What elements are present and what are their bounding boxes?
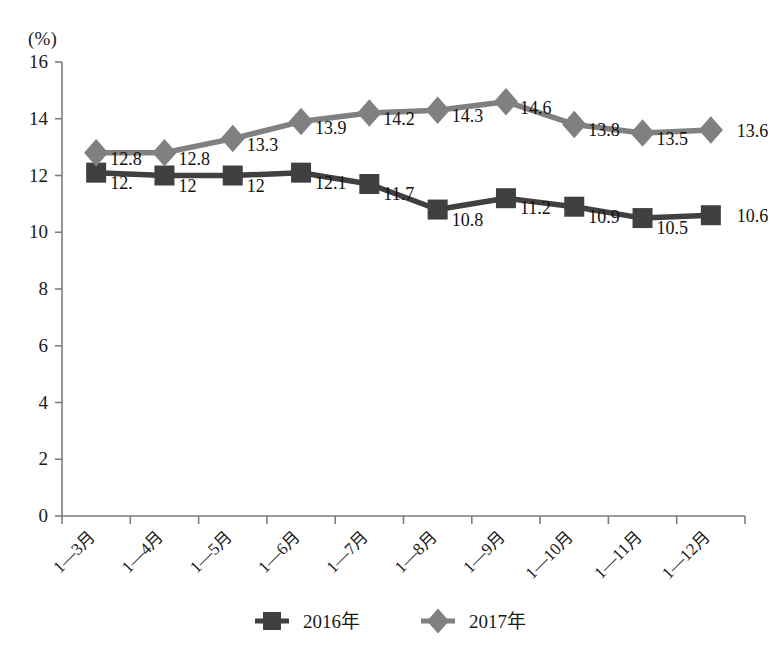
data-point-marker (291, 163, 311, 183)
legend-label: 2016年 (303, 611, 360, 632)
data-point-marker (84, 139, 108, 167)
data-point-marker (701, 205, 721, 225)
data-point-marker (357, 99, 381, 127)
line-chart-plot: 1614121086420 1—3月1—4月1—5月1—6月1—7月1—8月1—… (0, 0, 780, 665)
data-point-marker (564, 197, 584, 217)
data-point-marker (699, 116, 723, 144)
data-point-label: 14.6 (520, 98, 552, 118)
data-point-marker (427, 609, 449, 634)
data-point-marker (496, 188, 516, 208)
y-axis-tick-label: 10 (29, 221, 48, 242)
y-axis-tick-label: 6 (39, 335, 49, 356)
y-axis-tick-label: 2 (39, 448, 49, 469)
data-point-marker (562, 111, 586, 139)
data-point-label: 14.3 (452, 106, 484, 126)
x-axis-tick-label: 1—7月 (323, 527, 372, 576)
y-axis-tick-label: 0 (39, 505, 49, 526)
x-axis-tick-label: 1—8月 (391, 527, 440, 576)
x-axis: 1—3月1—4月1—5月1—6月1—7月1—8月1—9月1—10月1—11月1—… (49, 516, 745, 583)
data-point-label: 13.8 (588, 120, 620, 140)
data-point-marker (263, 612, 281, 630)
data-point-label: 13.9 (315, 118, 347, 138)
data-point-label: 10.5 (657, 218, 689, 238)
data-point-label: 12 (178, 176, 196, 196)
y-axis-tick-label: 4 (39, 392, 49, 413)
data-point-label: 14.2 (383, 109, 415, 129)
x-axis-tick-label: 1—3月 (49, 527, 98, 576)
data-point-marker (223, 166, 243, 186)
data-point-marker (359, 174, 379, 194)
data-point-marker (152, 139, 176, 167)
data-point-marker (633, 208, 653, 228)
data-point-label: 10.8 (452, 210, 484, 230)
x-axis-tick-label: 1—5月 (186, 527, 235, 576)
data-point-label: 12.8 (110, 149, 141, 169)
data-point-marker (630, 119, 654, 147)
data-point-marker (428, 200, 448, 220)
x-axis-tick-label: 1—11月 (590, 527, 645, 582)
data-point-label: 10.9 (588, 207, 620, 227)
data-point-marker (154, 166, 174, 186)
data-point-marker (289, 108, 313, 135)
data-point-label: 13.3 (247, 135, 279, 155)
data-point-label: 12 (247, 176, 265, 196)
data-point-marker (426, 96, 450, 124)
x-axis-tick-label: 1—10月 (522, 527, 578, 583)
x-axis-tick-label: 1—9月 (459, 527, 508, 576)
data-point-label: 13.6 (737, 121, 769, 141)
x-axis-tick-label: 1—4月 (118, 527, 167, 576)
data-point-label: 12.1 (315, 173, 347, 193)
y-axis-tick-label: 8 (39, 278, 49, 299)
legend-label: 2017年 (469, 611, 526, 632)
data-point-marker (221, 125, 245, 153)
y-axis: 1614121086420 (29, 51, 62, 526)
data-point-label: 13.5 (657, 129, 689, 149)
data-point-label: 12.8 (178, 149, 210, 169)
data-point-label: 12. (110, 173, 132, 193)
data-point-label: 11.7 (383, 184, 414, 204)
x-axis-tick-label: 1—12月 (658, 527, 714, 583)
data-point-marker (494, 88, 518, 116)
data-point-label: 10.6 (737, 206, 769, 226)
y-axis-tick-label: 12 (29, 165, 48, 186)
y-axis-tick-label: 16 (29, 51, 48, 72)
y-axis-tick-label: 14 (29, 108, 49, 129)
chart-container: (%) 1614121086420 1—3月1—4月1—5月1—6月1—7月1—… (0, 0, 780, 665)
data-point-label: 11.2 (520, 198, 551, 218)
x-axis-tick-label: 1—6月 (254, 527, 303, 576)
chart-legend: 2016年2017年 (255, 609, 526, 634)
